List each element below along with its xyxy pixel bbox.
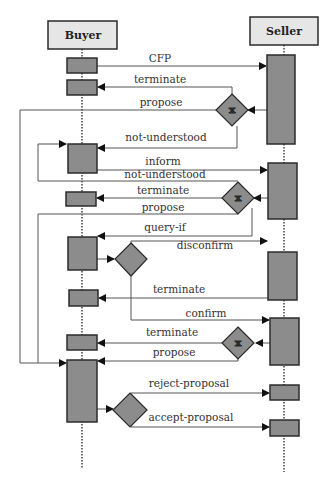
xor-label-2: X [235, 193, 242, 203]
xor-decision-1: X [216, 94, 248, 126]
label-terminate-4: terminate [146, 326, 198, 338]
seller-activation-1 [267, 55, 295, 144]
xor-label-1: X [229, 105, 236, 115]
label-accept-proposal: accept-proposal [149, 411, 234, 423]
accept-proposal-arrow [131, 425, 269, 427]
buyer-activation-3 [68, 144, 97, 173]
xor-decision-3: X [222, 327, 254, 359]
label-propose-2: propose [142, 201, 185, 213]
seller-activation-4 [270, 318, 299, 365]
buyer-activation-4 [66, 192, 96, 206]
label-cfp: CFP [149, 52, 171, 64]
label-terminate-2: terminate [137, 184, 189, 196]
label-inform: inform [145, 155, 180, 167]
xor-label-3: X [235, 338, 242, 348]
buyer-activation-8 [67, 360, 97, 422]
seller-activation-2 [268, 163, 297, 219]
seller-role-box: Seller [250, 17, 318, 45]
buyer-role-box: Buyer [48, 21, 117, 49]
decision-diamond-1 [115, 243, 147, 276]
label-reject-proposal: reject-proposal [149, 377, 230, 389]
label-not-understood-2: not-understood [124, 168, 206, 180]
seller-activation-3 [268, 252, 297, 300]
propose-arrow-3 [98, 359, 238, 361]
label-confirm: confirm [186, 307, 227, 319]
xor-decision-2: X [222, 182, 254, 214]
buyer-activation-1 [67, 58, 97, 73]
label-propose-3: propose [153, 346, 196, 358]
buyer-activation-2 [67, 80, 97, 95]
label-propose-1: propose [140, 96, 183, 108]
decision-diamond-2 [113, 393, 147, 427]
seller-role-label: Seller [266, 25, 302, 38]
label-query-if: query-if [144, 221, 187, 233]
interaction-diagram: Buyer Seller [0, 0, 334, 484]
seller-activation-5 [270, 385, 299, 400]
label-disconfirm: disconfirm [177, 239, 233, 251]
seller-activation-6 [270, 420, 299, 436]
buyer-activation-7 [67, 335, 97, 350]
buyer-activation-6 [69, 290, 98, 306]
buyer-role-label: Buyer [65, 29, 102, 42]
label-not-understood-1: not-understood [125, 131, 207, 143]
label-terminate-1: terminate [134, 73, 186, 85]
buyer-activation-5 [68, 237, 97, 270]
label-terminate-3: terminate [153, 283, 205, 295]
